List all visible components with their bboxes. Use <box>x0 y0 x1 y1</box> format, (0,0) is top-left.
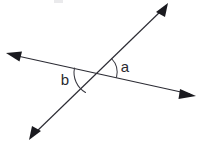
angle-a-label: a <box>121 58 130 75</box>
diagram-background <box>0 0 200 144</box>
angle-diagram: a b <box>0 0 200 144</box>
angle-b-label: b <box>61 71 69 88</box>
top-edge-artifact <box>54 0 63 3</box>
angle-diagram-svg: a b <box>0 0 200 144</box>
